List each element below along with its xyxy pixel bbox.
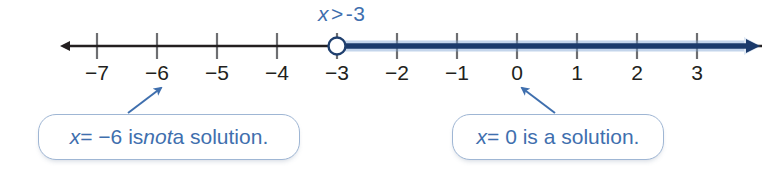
callout-right-segment-1: = 0 is a solution. — [487, 125, 639, 149]
tick-label-3: 3 — [691, 61, 703, 85]
tick-label--5: −5 — [205, 61, 229, 85]
callout-right-segment-0: x — [477, 125, 488, 149]
tick-label-0: 0 — [511, 61, 523, 85]
tick-label--3: −3 — [325, 61, 349, 85]
callout-left-segment-1: = −6 is — [80, 125, 143, 149]
tick-label--7: −7 — [85, 61, 109, 85]
callout-left-segment-3: a solution. — [173, 125, 269, 149]
tick-label--6: −6 — [145, 61, 169, 85]
callout-not-a-solution: x = −6 is not a solution. — [38, 114, 300, 160]
callout-left-arrow — [128, 88, 161, 113]
callout-left-segment-0: x — [70, 125, 81, 149]
tick-label--1: −1 — [445, 61, 469, 85]
number-line-figure: x>-3 — [0, 0, 776, 172]
tick-label--4: −4 — [265, 61, 289, 85]
callout-is-a-solution: x = 0 is a solution. — [452, 114, 664, 160]
tick-label-1: 1 — [571, 61, 583, 85]
open-circle-endpoint — [329, 38, 346, 55]
tick-label--2: −2 — [385, 61, 409, 85]
callout-left-segment-2: not — [143, 125, 172, 149]
tick-label-2: 2 — [631, 61, 643, 85]
callout-right-arrow — [522, 88, 555, 113]
